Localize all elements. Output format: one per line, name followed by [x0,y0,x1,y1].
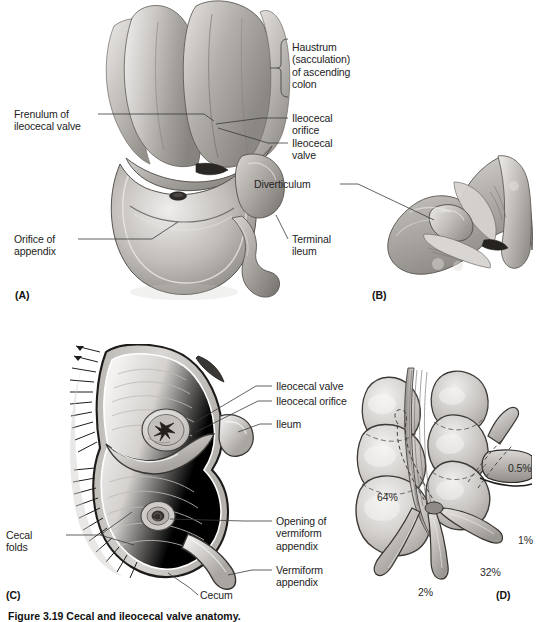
pct-preileal: 1% [518,534,533,546]
pct-retrocecal-retrocolic: 64% [377,491,398,503]
label-opening-of-vermiform-appendix: Opening of vermiform appendix [276,515,360,552]
figure-caption: Figure 3.19 Cecal and ileocecal valve an… [8,610,538,622]
label-ileocecal-orifice-c: Ileocecal orifice [276,395,380,407]
panel-a-illustration [92,0,297,305]
pct-retrocecal-subserosal: 0.5% [508,462,532,474]
label-ileum-c: Ileum [276,418,336,430]
label-cecal-folds: Cecal folds [6,529,62,554]
label-cecum: Cecum [200,589,256,601]
panel-label-c: (C) [6,589,21,601]
label-vermiform-appendix: Vermiform appendix [276,564,356,589]
panel-label-a: (A) [15,289,30,301]
pct-pelvic-descending: 32% [480,566,501,578]
label-ileocecal-valve-a: Ileocecal valve [292,137,362,162]
label-terminal-ileum: Terminal ileum [292,233,354,258]
panel-c-illustration [62,344,257,594]
pct-paracecal: 2% [418,586,433,598]
label-diverticulum: Diverticulum [254,178,338,190]
label-ileocecal-orifice-a: Ileocecal orifice [292,112,362,137]
panel-label-d: (D) [496,589,511,601]
label-ileocecal-valve-c: Ileocecal valve [276,380,376,392]
label-orifice-of-appendix: Orifice of appendix [14,233,94,258]
label-frenulum-of-ileocecal-valve: Frenulum of ileocecal valve [14,108,110,133]
panel-b-illustration [372,152,547,287]
panel-label-b: (B) [372,289,387,301]
label-haustrum: Haustrum (sacculation) of ascending colo… [292,41,378,91]
